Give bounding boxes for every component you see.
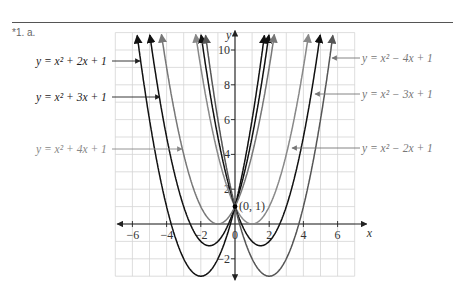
curve-label: y = x² + 4x + 1 [35, 143, 107, 156]
parabola-chart: xy−6−4−20246−2246810(0, 1)y = x² + 2x + … [0, 0, 453, 286]
x-tick-label: 6 [335, 228, 341, 242]
y-tick-label: 10 [218, 43, 230, 57]
y-tick-label: −2 [217, 252, 230, 266]
x-tick-label: −4 [161, 228, 174, 242]
x-tick-label: −6 [126, 228, 139, 242]
y-axis-label: y [225, 28, 232, 42]
y-tick-label: 8 [224, 78, 230, 92]
x-axis-label: x [366, 226, 373, 240]
curve-label: y = x² + 2x + 1 [35, 55, 107, 68]
curve-label: y = x² − 4x + 1 [361, 52, 433, 65]
curve-label: y = x² − 3x + 1 [361, 88, 433, 101]
curve-label: y = x² + 3x + 1 [35, 91, 107, 104]
x-tick-label: 4 [300, 228, 306, 242]
y-tick-label: 6 [224, 113, 230, 127]
x-tick-label: 0 [232, 228, 238, 242]
point-marker [233, 204, 238, 209]
point-label: (0, 1) [239, 199, 265, 213]
curve-label: y = x² − 2x + 1 [361, 142, 433, 155]
